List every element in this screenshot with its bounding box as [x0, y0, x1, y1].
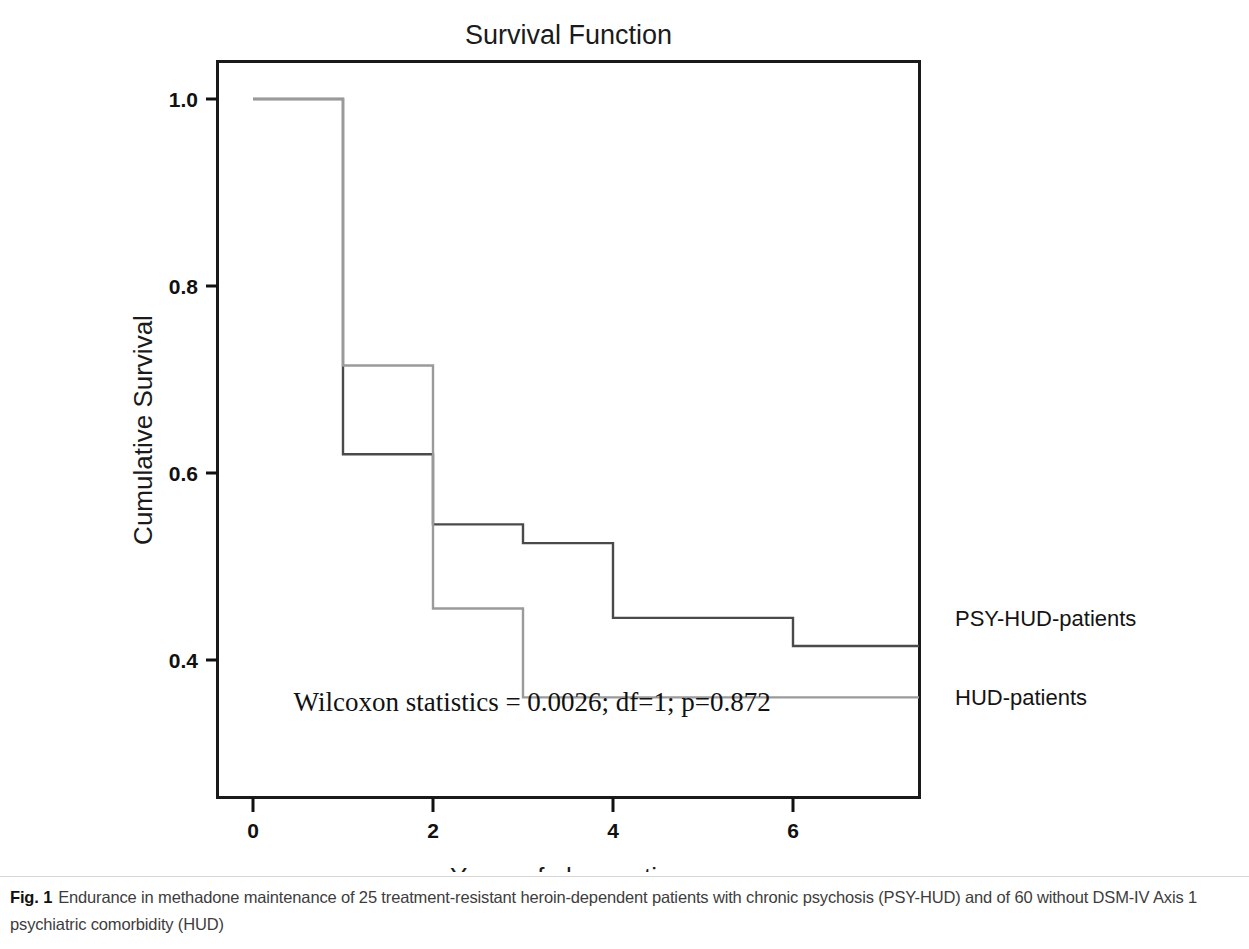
x-tick-label-0: 0: [247, 819, 259, 842]
figure-root: Survival Function 1.0 0.8 0.6 0.4: [0, 0, 1249, 949]
figure-caption: Fig. 1Endurance in methadone maintenance…: [10, 884, 1242, 938]
caption-text: Endurance in methadone maintenance of 25…: [10, 888, 1197, 933]
y-axis-ticks: [206, 99, 217, 660]
series-label-psy-hud-patients: PSY-HUD-patients: [955, 606, 1136, 631]
caption-label: Fig. 1: [10, 888, 52, 906]
y-axis-title: Cumulative Survival: [128, 315, 158, 545]
annotation-layer: Wilcoxon statistics = 0.0026; df=1; p=0.…: [294, 687, 771, 717]
y-tick-label-3: 0.4: [169, 649, 199, 672]
x-tick-label-1: 2: [427, 819, 439, 842]
survival-function-chart: Survival Function 1.0 0.8 0.6 0.4: [0, 0, 1249, 872]
series-label-hud-patients: HUD-patients: [955, 685, 1087, 710]
caption-divider: [0, 876, 1249, 877]
x-axis-tick-labels: 0 2 4 6: [247, 819, 799, 842]
y-axis-tick-labels: 1.0 0.8 0.6 0.4: [169, 88, 199, 672]
y-tick-label-2: 0.6: [169, 462, 198, 485]
x-axis-title: Years of observation: [450, 862, 686, 872]
plot-canvas: 1.0 0.8 0.6 0.4 0 2 4 6 Years of observa…: [0, 0, 1249, 872]
wilcoxon-statistics: Wilcoxon statistics = 0.0026; df=1; p=0.…: [294, 687, 771, 717]
x-tick-label-2: 4: [607, 819, 619, 842]
x-tick-label-3: 6: [787, 819, 799, 842]
y-tick-label-1: 0.8: [169, 275, 199, 298]
y-tick-label-0: 1.0: [169, 88, 198, 111]
series-label-layer: PSY-HUD-patientsHUD-patients: [955, 606, 1136, 710]
x-axis-ticks: [253, 798, 793, 812]
